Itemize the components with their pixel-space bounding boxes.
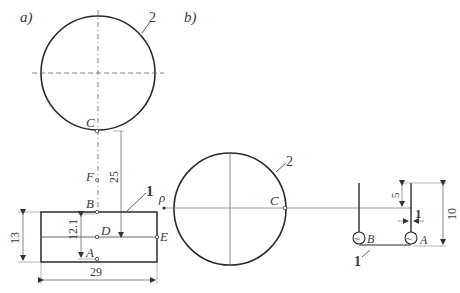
panel-a: a) 2 C 25 F 1 B D A E 12.1 [8, 9, 168, 284]
point-c-b-label: C [270, 193, 279, 208]
dimension-29: 29 [90, 265, 102, 279]
point-b-a-label: B [86, 196, 94, 211]
diagram-canvas: a) 2 C 25 F 1 B D A E 12.1 [0, 0, 460, 293]
point-c-a [95, 129, 99, 133]
panel-b-label: b) [184, 9, 197, 26]
point-b-b-label: B [367, 232, 375, 246]
source-a-symbol: ~ [406, 232, 412, 244]
point-f [96, 179, 99, 182]
dimension-25: 25 [107, 171, 121, 183]
dimension-10: 10 [445, 208, 459, 220]
part-1-b-label: 1 [354, 254, 361, 269]
point-a-a [95, 257, 98, 260]
dimension-13: 13 [8, 232, 22, 244]
dimension-1: 1 [415, 206, 422, 221]
part-1-a-label: 1 [146, 183, 154, 199]
point-c-b [283, 206, 287, 210]
point-a-b-label: A [419, 233, 428, 247]
point-b-a [95, 210, 98, 213]
point-a-a-label: A [85, 245, 94, 260]
point-e-label: E [159, 229, 168, 244]
circle-2-a-label: 2 [149, 10, 156, 25]
leader-1-a [127, 193, 146, 211]
point-f-label: F [85, 169, 95, 184]
rho-label: ρ [158, 190, 165, 205]
circle-2-b-label: 2 [286, 154, 293, 169]
leader-2-b [276, 163, 286, 172]
panel-b: b) 2 ρ C ~ B ~ A 1 5 1 [158, 9, 459, 269]
point-d [95, 235, 98, 238]
leader-1-b [362, 250, 370, 257]
point-e [155, 235, 158, 238]
point-rho [162, 206, 165, 209]
dimension-12-1: 12.1 [66, 219, 80, 240]
point-d-label: D [100, 223, 111, 238]
point-c-a-label: C [86, 115, 95, 130]
dimension-5: 5 [389, 192, 401, 198]
panel-a-label: a) [20, 9, 33, 26]
source-b-symbol: ~ [354, 232, 360, 244]
